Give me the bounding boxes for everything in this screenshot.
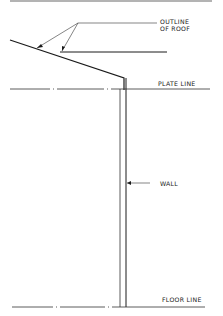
roof-slope-line	[10, 40, 124, 90]
label-of-roof: OF ROOF	[160, 25, 190, 32]
label-floor-line: FLOOR LINE	[162, 296, 202, 303]
label-outline: OUTLINE	[160, 18, 189, 25]
label-wall: WALL	[160, 180, 178, 187]
diagram-canvas: OUTLINE OF ROOF PLATE LINE WALL FLOOR LI…	[0, 0, 223, 316]
arrowhead-icon	[127, 181, 131, 185]
roof-leader	[37, 23, 157, 51]
label-plate-line: PLATE LINE	[158, 80, 196, 87]
